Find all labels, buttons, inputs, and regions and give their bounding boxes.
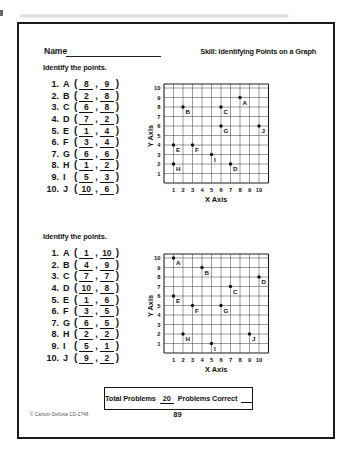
x-answer-field[interactable]: 1 (79, 296, 93, 306)
comma: , (95, 126, 98, 136)
x-answer-field[interactable]: 7 (79, 272, 93, 282)
problems-correct-blank[interactable] (241, 395, 252, 403)
y-answer-field[interactable]: 2 (100, 161, 114, 171)
y-tick-label: 7 (157, 284, 160, 290)
y-answer-field[interactable]: 5 (100, 319, 114, 329)
graph-point-label: J (252, 335, 256, 342)
close-paren: ) (116, 136, 119, 147)
comma: , (95, 353, 98, 363)
y-answer-field[interactable]: 3 (100, 173, 114, 183)
y-answer-field[interactable]: 7 (100, 272, 114, 282)
problem-number: 3. (42, 102, 59, 112)
y-answer-field[interactable]: 6 (100, 150, 114, 160)
x-answer-field[interactable]: 5 (79, 173, 93, 183)
graph-point (172, 162, 175, 165)
close-paren: ) (116, 148, 119, 159)
comma: , (95, 137, 98, 147)
x-answer-field[interactable]: 1 (79, 161, 93, 171)
y-answer-field[interactable]: 5 (100, 307, 114, 317)
problem-number: 10. (42, 184, 59, 194)
y-answer-field[interactable]: 6 (100, 296, 114, 306)
point-letter: B (63, 260, 74, 270)
x-answer-field[interactable]: 5 (79, 342, 93, 352)
x-answer-field[interactable]: 1 (79, 127, 93, 137)
problem-list-1: 1.A(8,9)2.B(2,8)3.C(6,8)4.D(7,2)5.E(1,4)… (42, 78, 119, 194)
problem-list-2: 1.A(1,10)2.B(4,9)3.C(7,7)4.D(10,8)5.E(1,… (42, 247, 119, 363)
graph-point-label: C (233, 288, 238, 295)
close-paren: ) (116, 305, 119, 316)
y-answer-field[interactable]: 2 (100, 115, 114, 125)
graph-point (191, 304, 194, 307)
x-tick-label: 1 (172, 187, 176, 193)
problem-row: 1.A(8,9) (42, 78, 119, 90)
close-paren: ) (116, 328, 119, 339)
y-answer-field[interactable]: 4 (100, 127, 114, 137)
x-answer-field[interactable]: 1 (79, 249, 93, 259)
x-tick-label: 2 (181, 357, 184, 363)
y-answer-field[interactable]: 6 (100, 185, 114, 195)
comma: , (95, 306, 98, 316)
y-answer-field[interactable]: 9 (100, 80, 114, 90)
x-axis-title: X Axis (205, 195, 227, 204)
problem-row: 5.E(1,4) (42, 125, 119, 137)
graph-point (219, 304, 222, 307)
close-paren: ) (116, 125, 119, 136)
x-answer-field[interactable]: 9 (79, 354, 93, 364)
close-paren: ) (116, 294, 119, 305)
y-tick-label: 2 (157, 331, 160, 337)
x-answer-field[interactable]: 3 (79, 138, 93, 148)
y-answer-field[interactable]: 8 (100, 103, 114, 113)
x-tick-label: 5 (210, 187, 214, 193)
point-letter: H (63, 160, 74, 170)
open-paren: ( (74, 101, 77, 112)
page-number: 89 (104, 410, 251, 419)
x-answer-field[interactable]: 6 (79, 150, 93, 160)
open-paren: ( (74, 352, 77, 363)
x-answer-field[interactable]: 7 (79, 115, 93, 125)
graph-point-label: H (186, 335, 191, 342)
point-letter: I (63, 172, 74, 182)
point-letter: F (63, 306, 74, 316)
comma: , (95, 283, 98, 293)
close-paren: ) (116, 101, 119, 112)
y-answer-field[interactable]: 8 (100, 92, 114, 102)
x-answer-field[interactable]: 2 (79, 92, 93, 102)
x-answer-field[interactable]: 8 (79, 80, 93, 90)
y-answer-field[interactable]: 2 (100, 330, 114, 340)
y-answer-field[interactable]: 9 (100, 261, 114, 271)
x-answer-field[interactable]: 2 (79, 330, 93, 340)
x-tick-label: 3 (191, 357, 195, 363)
x-tick-label: 4 (200, 187, 204, 193)
comma: , (95, 271, 98, 281)
problem-row: 10.J(9,2) (42, 352, 119, 364)
problem-row: 9.I(5,3) (42, 171, 119, 183)
x-answer-field[interactable]: 6 (79, 319, 93, 329)
x-answer-field[interactable]: 6 (79, 103, 93, 113)
x-answer-field[interactable]: 3 (79, 307, 93, 317)
graph-point (219, 124, 222, 127)
problem-number: 6. (42, 306, 59, 316)
copyright-text: © Carson-Dellosa CD-2748 (30, 412, 88, 417)
y-tick-label: 1 (157, 341, 161, 347)
y-answer-field[interactable]: 2 (100, 354, 114, 364)
name-blank-line[interactable] (66, 56, 161, 57)
x-answer-field[interactable]: 10 (79, 185, 93, 195)
graph-point (191, 143, 194, 146)
graph-point (172, 294, 175, 297)
open-paren: ( (74, 270, 77, 281)
y-answer-field[interactable]: 8 (100, 284, 114, 294)
y-answer-field[interactable]: 4 (100, 138, 114, 148)
x-tick-label: 10 (256, 357, 262, 363)
x-tick-label: 2 (181, 187, 184, 193)
x-tick-label: 9 (248, 187, 252, 193)
y-answer-field[interactable]: 1 (100, 342, 114, 352)
y-answer-field[interactable]: 10 (100, 249, 114, 259)
x-answer-field[interactable]: 4 (79, 261, 93, 271)
x-tick-label: 10 (256, 187, 262, 193)
x-answer-field[interactable]: 10 (79, 284, 93, 294)
comma: , (95, 102, 98, 112)
graph-point-label: F (195, 146, 199, 153)
y-tick-label: 4 (157, 142, 161, 148)
open-paren: ( (74, 159, 77, 170)
graph-point (172, 256, 175, 259)
